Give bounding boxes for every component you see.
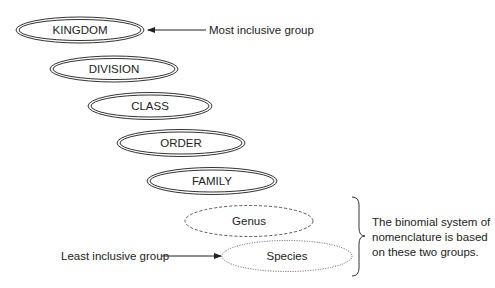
curly-brace-icon [352,197,365,276]
family-label: FAMILY [192,175,232,187]
class-label: CLASS [131,100,169,112]
binomial-note-line-1: The binomial system of [372,216,491,228]
species-node: Species [222,241,352,272]
species-label: Species [267,250,308,262]
order-node: ORDER [117,130,245,157]
class-node: CLASS [88,93,212,120]
genus-node: Genus [185,206,313,237]
least-inclusive-label: Least inclusive group [61,250,169,262]
kingdom-label: KINGDOM [53,24,108,36]
least-inclusive-annotation: Least inclusive group [61,250,221,262]
taxonomy-diagram: KINGDOM DIVISION CLASS ORDER FAMILY Genu… [0,0,495,288]
order-label: ORDER [160,137,202,149]
kingdom-node: KINGDOM [16,17,144,43]
binomial-note-line-2: nomenclature is based [372,231,488,243]
division-node: DIVISION [50,56,178,82]
genus-label: Genus [232,215,266,227]
most-inclusive-label: Most inclusive group [209,24,314,36]
division-label: DIVISION [89,63,139,75]
most-inclusive-annotation: Most inclusive group [148,24,314,36]
binomial-note-line-3: on these two groups. [372,246,479,258]
family-node: FAMILY [147,168,277,195]
